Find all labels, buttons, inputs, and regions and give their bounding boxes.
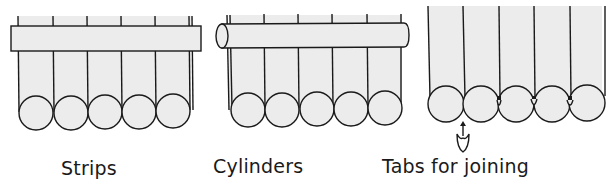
flat-strip-bar — [11, 26, 201, 51]
tabs-panel — [428, 6, 605, 152]
cylinder-rod-end — [216, 24, 228, 48]
cylinders-panel — [216, 14, 409, 127]
strips-label: Strips — [61, 157, 117, 179]
strips-circles — [19, 94, 190, 130]
tab-arrow-icon — [457, 121, 469, 152]
tabs-circles — [428, 85, 605, 122]
cylinders-circles — [231, 91, 402, 127]
tabs-for-joining-label: Tabs for joining — [382, 155, 529, 177]
strips-panel — [11, 16, 201, 130]
cylinders-label: Cylinders — [213, 155, 303, 177]
cylinder-rod — [222, 23, 409, 48]
